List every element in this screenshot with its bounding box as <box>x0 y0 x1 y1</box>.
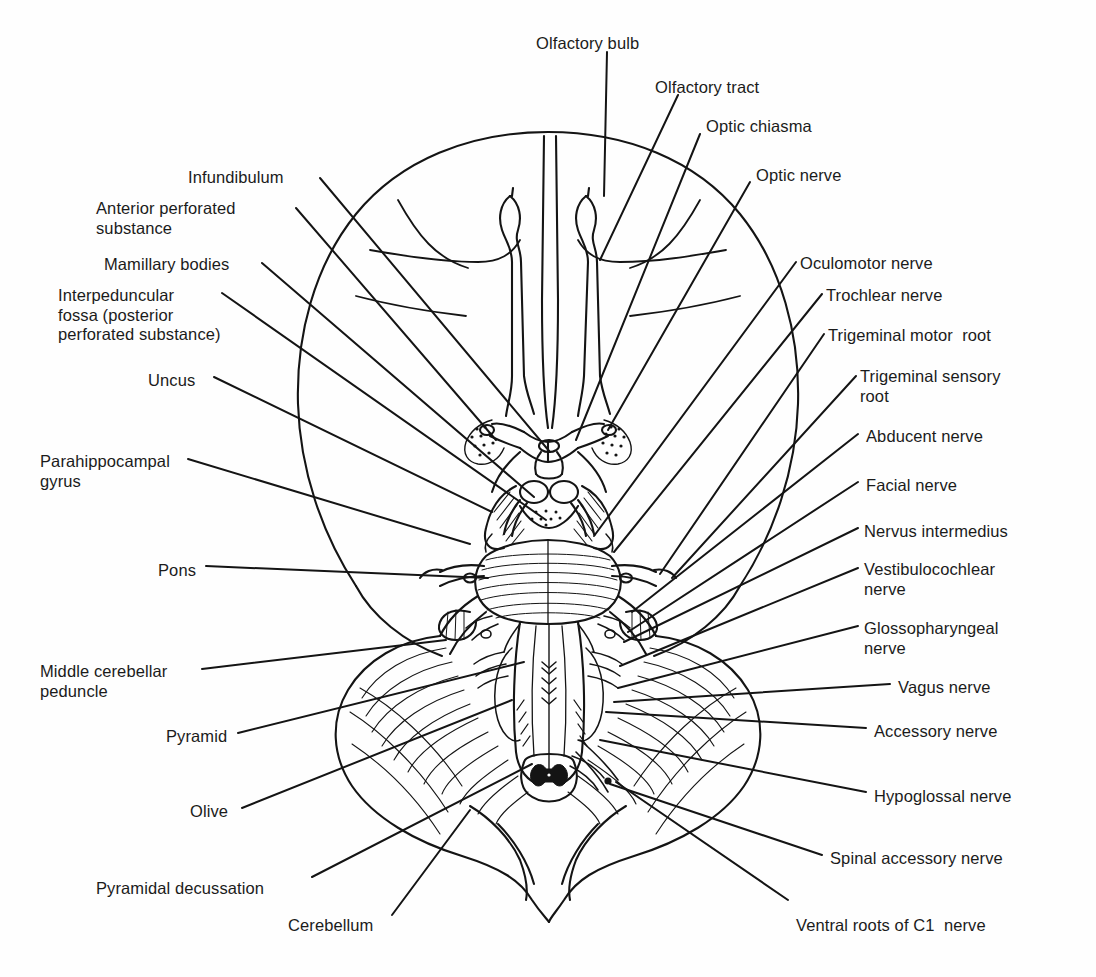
label-pyramidal-decussation: Pyramidal decussation <box>96 879 264 899</box>
optic-chiasma <box>520 432 578 462</box>
label-line: Vagus nerve <box>898 678 991 698</box>
facial-and-vestibulocochlear-nerves-right <box>598 616 630 640</box>
label-line: Pons <box>158 561 196 581</box>
label-line: Anterior perforated <box>96 199 235 219</box>
label-line: Spinal accessory nerve <box>830 849 1003 869</box>
label-interpeduncular-fossa: Interpeduncularfossa (posteriorperforate… <box>58 286 221 345</box>
label-line: Vestibulocochlear <box>864 560 995 580</box>
label-line: Optic chiasma <box>706 117 812 137</box>
label-olfactory-bulb: Olfactory bulb <box>536 34 639 54</box>
interpeduncular-fossa <box>520 506 578 528</box>
label-line: Glossopharyngeal <box>864 619 999 639</box>
leader-lines-right <box>576 52 890 900</box>
trochlear-nerve-left <box>485 534 492 552</box>
label-anterior-perforated: Anterior perforatedsubstance <box>96 199 235 238</box>
optic-nerve-left <box>480 423 524 448</box>
label-nervus-intermedius: Nervus intermedius <box>864 522 1008 542</box>
label-line: Cerebellum <box>288 916 373 936</box>
label-line: substance <box>96 219 235 239</box>
cerebellum-left-hemisphere <box>336 636 549 922</box>
label-line: Ventral roots of C1 nerve <box>796 916 986 936</box>
label-line: Mamillary bodies <box>104 255 229 275</box>
label-line: Accessory nerve <box>874 722 997 742</box>
label-mamillary-bodies: Mamillary bodies <box>104 255 229 275</box>
pons <box>475 540 621 624</box>
label-spinal-accessory-nerve: Spinal accessory nerve <box>830 849 1003 869</box>
label-line: Oculomotor nerve <box>800 254 933 274</box>
label-uncus: Uncus <box>148 371 195 391</box>
label-pons: Pons <box>158 561 196 581</box>
label-oculomotor-nerve: Oculomotor nerve <box>800 254 933 274</box>
label-line: nerve <box>864 639 999 659</box>
label-middle-cerebellar-peduncle: Middle cerebellarpeduncle <box>40 662 167 701</box>
label-line: Nervus intermedius <box>864 522 1008 542</box>
label-line: root <box>860 387 1001 407</box>
longitudinal-fissure <box>542 136 558 428</box>
label-line: Interpeduncular <box>58 286 221 306</box>
label-line: perforated substance) <box>58 325 221 345</box>
label-hypoglossal-nerve: Hypoglossal nerve <box>874 787 1011 807</box>
label-line: Abducent nerve <box>866 427 983 447</box>
label-trochlear-nerve: Trochlear nerve <box>826 286 942 306</box>
figure-canvas: InfundibulumAnterior perforatedsubstance… <box>0 0 1096 977</box>
label-line: Parahippocampal <box>40 452 170 472</box>
label-line: Olfactory tract <box>655 78 759 98</box>
label-pyramid: Pyramid <box>166 727 227 747</box>
label-olive: Olive <box>190 802 228 822</box>
label-line: peduncle <box>40 682 167 702</box>
label-optic-chiasma: Optic chiasma <box>706 117 812 137</box>
label-line: Optic nerve <box>756 166 841 186</box>
label-parahippocampal-gyrus: Parahippocampalgyrus <box>40 452 170 491</box>
trochlear-nerve-right <box>606 534 613 552</box>
label-line: Olfactory bulb <box>536 34 639 54</box>
label-glossopharyngeal-nerve: Glossopharyngealnerve <box>864 619 999 658</box>
olfactory-bulb-and-tract-right <box>576 188 610 416</box>
label-abducent-nerve: Abducent nerve <box>866 427 983 447</box>
facial-and-vestibulocochlear-nerves-left <box>466 616 498 640</box>
label-line: Hypoglossal nerve <box>874 787 1011 807</box>
label-line: Trigeminal sensory <box>860 367 1001 387</box>
label-line: fossa (posterior <box>58 306 221 326</box>
label-line: Pyramid <box>166 727 227 747</box>
label-vagus-nerve: Vagus nerve <box>898 678 991 698</box>
label-line: Trigeminal motor root <box>828 326 991 346</box>
label-line: Pyramidal decussation <box>96 879 264 899</box>
label-trigeminal-motor-root: Trigeminal motor root <box>828 326 991 346</box>
label-line: Uncus <box>148 371 195 391</box>
label-line: Infundibulum <box>188 168 284 188</box>
label-vestibulocochlear-nerve: Vestibulocochlearnerve <box>864 560 995 599</box>
label-line: Trochlear nerve <box>826 286 942 306</box>
label-accessory-nerve: Accessory nerve <box>874 722 997 742</box>
label-olfactory-tract: Olfactory tract <box>655 78 759 98</box>
label-line: Olive <box>190 802 228 822</box>
label-ventral-roots-c1: Ventral roots of C1 nerve <box>796 916 986 936</box>
label-facial-nerve: Facial nerve <box>866 476 957 496</box>
label-trigeminal-sensory-root: Trigeminal sensoryroot <box>860 367 1001 406</box>
olfactory-bulb-and-tract-left <box>500 188 534 416</box>
medulla-oblongata <box>495 622 603 784</box>
medulla-rootlets <box>517 700 587 746</box>
label-line: Middle cerebellar <box>40 662 167 682</box>
label-optic-nerve: Optic nerve <box>756 166 841 186</box>
label-infundibulum: Infundibulum <box>188 168 284 188</box>
label-line: Facial nerve <box>866 476 957 496</box>
label-line: gyrus <box>40 472 170 492</box>
label-line: nerve <box>864 580 995 600</box>
label-cerebellum: Cerebellum <box>288 916 373 936</box>
